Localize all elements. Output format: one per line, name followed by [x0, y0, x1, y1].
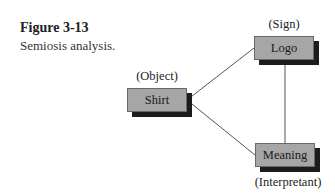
edge-object-sign [187, 48, 254, 100]
node-label-shirt: Shirt [145, 93, 169, 108]
role-label-sign: (Sign) [268, 17, 299, 32]
role-label-object: (Object) [136, 69, 178, 84]
node-object: Shirt [127, 88, 187, 112]
node-label-logo: Logo [271, 41, 297, 56]
node-sign: Logo [254, 36, 314, 60]
node-interpretant: Meaning [255, 143, 315, 167]
role-label-interpretant: (Interpretant) [255, 175, 322, 190]
node-box: Shirt [127, 88, 187, 112]
node-box: Meaning [255, 143, 315, 167]
edge-object-interpretant [187, 100, 255, 155]
node-label-meaning: Meaning [263, 148, 307, 163]
node-box: Logo [254, 36, 314, 60]
